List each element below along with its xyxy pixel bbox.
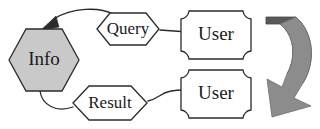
user-loop-arrow-icon xyxy=(266,17,311,117)
node-result[interactable]: Result xyxy=(73,86,147,120)
diagram-canvas: Info Query Result User User xyxy=(0,0,320,129)
node-user-top[interactable]: User xyxy=(181,11,251,59)
edge-curve xyxy=(54,9,113,19)
flow-diagram: Info Query Result User User xyxy=(0,0,320,129)
node-user-top-label: User xyxy=(198,23,235,44)
node-query[interactable]: Query xyxy=(97,13,159,45)
node-query-label: Query xyxy=(107,19,150,38)
node-info[interactable]: Info xyxy=(9,29,79,91)
node-result-label: Result xyxy=(88,93,132,112)
node-user-bottom-label: User xyxy=(198,82,235,103)
edge-info-to-result xyxy=(40,91,73,109)
edge-curve xyxy=(148,90,184,101)
node-user-bottom[interactable]: User xyxy=(181,70,251,118)
loop-arrow-head-mid xyxy=(267,17,311,117)
edge-curve xyxy=(40,91,73,109)
node-info-label: Info xyxy=(28,48,60,69)
